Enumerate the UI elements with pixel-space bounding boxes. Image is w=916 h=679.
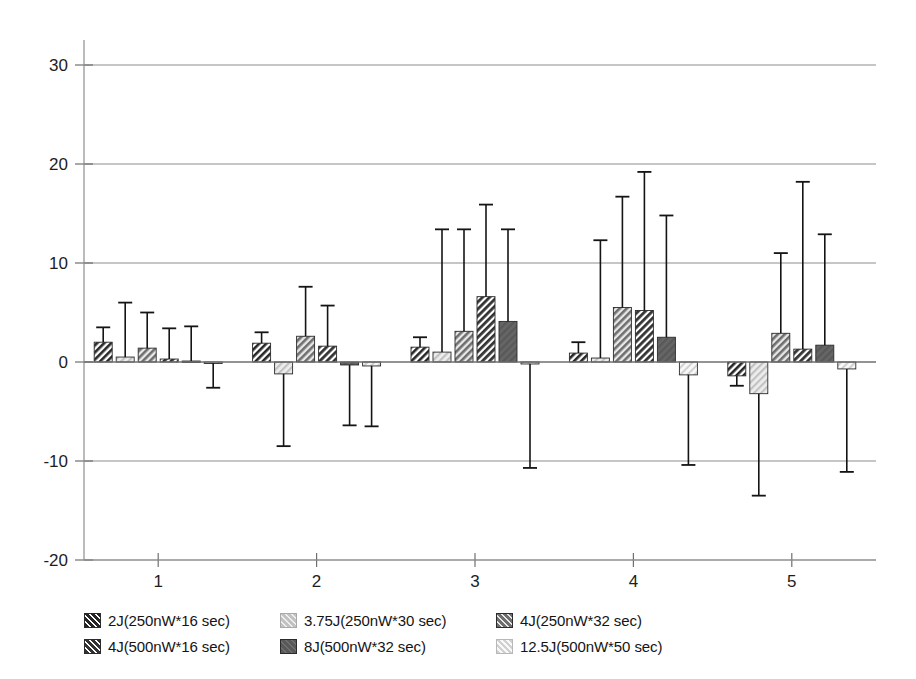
bar: [433, 352, 451, 362]
chart-legend: 2J(250nW*16 sec) 3.75J(250nW*30 sec) 4J(…: [84, 607, 784, 659]
legend-item-5[interactable]: 12.5J(500nW*50 sec): [496, 638, 706, 655]
bar: [116, 357, 134, 362]
y-tick-label: 20: [49, 155, 68, 174]
x-tick-label: 3: [470, 572, 479, 591]
bar: [679, 362, 697, 375]
x-tick-label: 4: [629, 572, 638, 591]
x-axis-ticks: 12345: [153, 553, 796, 591]
bar: [816, 345, 834, 362]
bar: [455, 331, 473, 362]
legend-item-label: 3.75J(250nW*30 sec): [304, 612, 446, 629]
legend-swatch-icon: [496, 613, 513, 628]
bar: [728, 362, 746, 376]
legend-item-label: 8J(500nW*32 sec): [304, 638, 426, 655]
legend-item-4[interactable]: 8J(500nW*32 sec): [280, 638, 490, 655]
legend-item-label: 4J(250nW*32 sec): [520, 612, 642, 629]
bar: [657, 337, 675, 362]
bar: [411, 347, 429, 362]
y-tick-label: 10: [49, 254, 68, 273]
y-tick-label: 30: [49, 56, 68, 75]
chart-page: 3020100-10-20 12345 2J(250nW*16 sec) 3.7…: [0, 0, 916, 679]
bar: [569, 353, 587, 362]
bar: [138, 348, 156, 362]
legend-swatch-icon: [84, 639, 101, 654]
bar-chart-svg: 3020100-10-20 12345: [0, 0, 916, 600]
bar: [794, 349, 812, 362]
bar: [275, 362, 293, 374]
bar: [635, 311, 653, 362]
x-tick-label: 5: [787, 572, 796, 591]
legend-item-label: 4J(500nW*16 sec): [108, 638, 230, 655]
bar: [94, 342, 112, 362]
y-tick-label: 0: [59, 353, 68, 372]
legend-item-0[interactable]: 2J(250nW*16 sec): [84, 612, 274, 629]
y-tick-label: -20: [43, 551, 68, 570]
legend-swatch-icon: [84, 613, 101, 628]
bar: [499, 321, 517, 362]
legend-swatch-icon: [496, 639, 513, 654]
plot-area: 3020100-10-20 12345: [0, 0, 916, 600]
x-tick-label: 1: [153, 572, 162, 591]
y-tick-label: -10: [43, 452, 68, 471]
bar: [253, 343, 271, 362]
bar-series-group: [94, 297, 856, 394]
bar: [750, 362, 768, 394]
legend-swatch-icon: [280, 639, 297, 654]
bar: [772, 333, 790, 362]
bar: [613, 308, 631, 362]
legend-item-3[interactable]: 4J(500nW*16 sec): [84, 638, 274, 655]
legend-item-2[interactable]: 4J(250nW*32 sec): [496, 612, 706, 629]
bar: [297, 336, 315, 362]
legend-item-label: 2J(250nW*16 sec): [108, 612, 230, 629]
bar: [838, 362, 856, 369]
legend-item-1[interactable]: 3.75J(250nW*30 sec): [280, 612, 490, 629]
legend-item-label: 12.5J(500nW*50 sec): [520, 638, 662, 655]
x-tick-label: 2: [312, 572, 321, 591]
legend-swatch-icon: [280, 613, 297, 628]
bar: [477, 297, 495, 362]
error-bars-group: [96, 172, 854, 496]
y-axis-ticks: 3020100-10-20: [43, 56, 93, 570]
bar: [319, 346, 337, 362]
